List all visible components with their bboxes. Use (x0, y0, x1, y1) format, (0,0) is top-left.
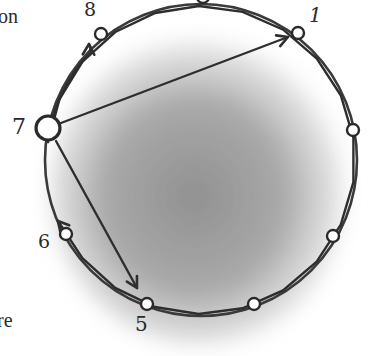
node-nright (347, 124, 359, 136)
node-8 (95, 28, 107, 40)
node-5 (141, 298, 153, 310)
text-fragment-bottom: re (0, 310, 13, 330)
node-label-8: 8 (84, 0, 96, 19)
node-ntop (197, 0, 209, 3)
node-label-7: 7 (12, 116, 26, 138)
node-label-1: 1 (309, 5, 322, 25)
node-label-6: 6 (38, 232, 50, 251)
node-nlowright (327, 230, 339, 242)
node-7 (36, 116, 60, 140)
node-nbottomright (248, 298, 260, 310)
ring-svg (0, 0, 376, 356)
text-fragment-top: on (0, 6, 18, 26)
node-1 (292, 27, 304, 39)
node-label-5: 5 (135, 314, 148, 334)
shaded-region (50, 35, 350, 345)
node-6 (60, 228, 72, 240)
ring-diagram: on re 81567 (0, 0, 376, 356)
